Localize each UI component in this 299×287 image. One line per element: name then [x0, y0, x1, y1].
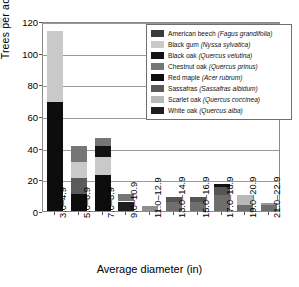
legend-swatch-icon — [151, 74, 164, 81]
x-tick-mark — [244, 212, 245, 215]
y-tick-label: 0 — [4, 207, 38, 218]
legend-item: Black oak (Quercus velutina) — [151, 50, 287, 61]
y-tick-label: 80 — [4, 80, 38, 91]
legend-label: American beech (Fagus grandifolia) — [168, 30, 272, 38]
x-tick-mark — [221, 212, 222, 215]
legend-swatch-icon — [151, 107, 164, 114]
bar-segment — [71, 162, 87, 178]
x-tick-label: 3.0–4.9 — [58, 187, 68, 218]
legend-label: Black oak (Quercus velutina) — [168, 52, 252, 60]
x-axis-title: Average diameter (in) — [0, 263, 299, 275]
legend-item: Scarlet oak (Quercus coccinea) — [151, 94, 287, 105]
legend-label: Red maple (Acer rubrum) — [168, 74, 242, 82]
legend-swatch-icon — [151, 85, 164, 92]
x-tick-label: 5.0–6.9 — [82, 187, 92, 218]
x-tick-mark — [78, 212, 79, 215]
legend-item: Red maple (Acer rubrum) — [151, 72, 287, 83]
legend-swatch-icon — [151, 30, 164, 37]
x-tick-label: 15.0–16.9 — [201, 177, 211, 218]
figure: Trees per acre 020406080100120 3.0–4.95.… — [0, 0, 299, 287]
legend-swatch-icon — [151, 52, 164, 59]
bar-stack — [95, 21, 111, 211]
x-tick-label: 9.0–10.9 — [129, 182, 139, 218]
legend-swatch-icon — [151, 41, 164, 48]
bar-segment — [47, 31, 63, 102]
x-tick-label: 7.0–8.9 — [106, 187, 116, 218]
x-tick-mark — [197, 212, 198, 215]
legend-swatch-icon — [151, 96, 164, 103]
x-tick-mark — [149, 212, 150, 215]
x-tick-label: 13.0–14.9 — [177, 177, 187, 218]
x-tick-label: 19.0–20.9 — [248, 177, 258, 218]
legend-swatch-icon — [151, 63, 164, 70]
x-tick-label: 11.0–12.9 — [153, 177, 163, 218]
legend-label: Chestnut oak (Quercus prinus) — [168, 63, 258, 71]
legend: American beech (Fagus grandifolia)Black … — [146, 24, 292, 120]
bar-segment — [71, 146, 87, 162]
y-tick-label: 20 — [4, 175, 38, 186]
x-tick-mark — [173, 212, 174, 215]
bar-segment — [95, 146, 111, 157]
legend-label: Black gum (Nyssa sylvatica) — [168, 41, 250, 49]
y-tick-label: 100 — [4, 48, 38, 59]
bar-segment — [95, 157, 111, 174]
x-tick-mark — [268, 212, 269, 215]
bar-stack — [71, 21, 87, 211]
y-tick-label: 60 — [4, 112, 38, 123]
x-tick-mark — [54, 212, 55, 215]
bar-segment — [95, 138, 111, 146]
y-tick-mark — [39, 212, 42, 213]
legend-item: Sassafras (Sassafras albidum) — [151, 83, 287, 94]
legend-item: White oak (Quercus alba) — [151, 105, 287, 116]
legend-item: American beech (Fagus grandifolia) — [151, 28, 287, 39]
x-tick-label: 21.0–22.9 — [272, 177, 282, 218]
legend-label: Scarlet oak (Quercus coccinea) — [168, 96, 260, 104]
y-axis-title: Trees per acre — [0, 0, 11, 84]
y-tick-label: 120 — [4, 17, 38, 28]
y-tick-label: 40 — [4, 143, 38, 154]
legend-item: Chestnut oak (Quercus prinus) — [151, 61, 287, 72]
legend-label: Sassafras (Sassafras albidum) — [168, 85, 258, 93]
legend-item: Black gum (Nyssa sylvatica) — [151, 39, 287, 50]
x-tick-mark — [102, 212, 103, 215]
x-tick-label: 17.0–18.9 — [225, 177, 235, 218]
legend-label: White oak (Quercus alba) — [168, 107, 243, 115]
x-tick-mark — [125, 212, 126, 215]
bar-stack — [47, 21, 63, 211]
